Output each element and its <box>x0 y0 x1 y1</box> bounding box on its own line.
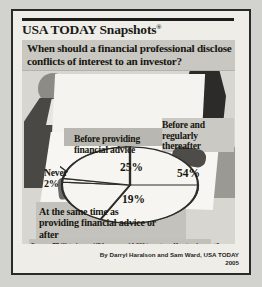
pie-value-25: 25% <box>120 161 143 173</box>
question-text: When should a financial professional dis… <box>27 42 233 68</box>
snapshot-frame: USA TODAY Snapshots® <box>11 9 251 275</box>
registered-mark: ® <box>156 23 161 31</box>
byline-authors: By Darryl Haralson and Sam Ward, USA TOD… <box>100 251 239 258</box>
label-never: Never2% <box>44 168 84 189</box>
snapshot-page: USA TODAY Snapshots® <box>0 0 262 287</box>
source-note: Source: TD Waterhouse USA survey of 1,00… <box>31 242 231 244</box>
label-never-text: Never <box>44 167 68 178</box>
label-before-and-regularly: Before and regularly thereafter <box>162 120 224 152</box>
illustration-panel: 25% 54% 19% Before providing financial a… <box>22 40 235 244</box>
pie-value-54: 54% <box>177 167 200 179</box>
brand-name: USA TODAY Snapshots <box>22 22 156 37</box>
snapshot-inner: USA TODAY Snapshots® <box>13 11 249 273</box>
byline-year: 2005 <box>225 259 239 266</box>
label-same-time: At the same time as providing financial … <box>39 206 159 240</box>
pie-value-19: 19% <box>122 193 145 205</box>
question-banner: When should a financial professional dis… <box>22 40 235 71</box>
byline: By Darryl Haralson and Sam Ward, USA TOD… <box>49 251 239 268</box>
brand-title: USA TODAY Snapshots® <box>22 22 237 38</box>
header-rule <box>22 18 234 21</box>
label-before-providing: Before providing financial advice <box>74 134 170 155</box>
label-never-value: 2% <box>44 179 84 190</box>
